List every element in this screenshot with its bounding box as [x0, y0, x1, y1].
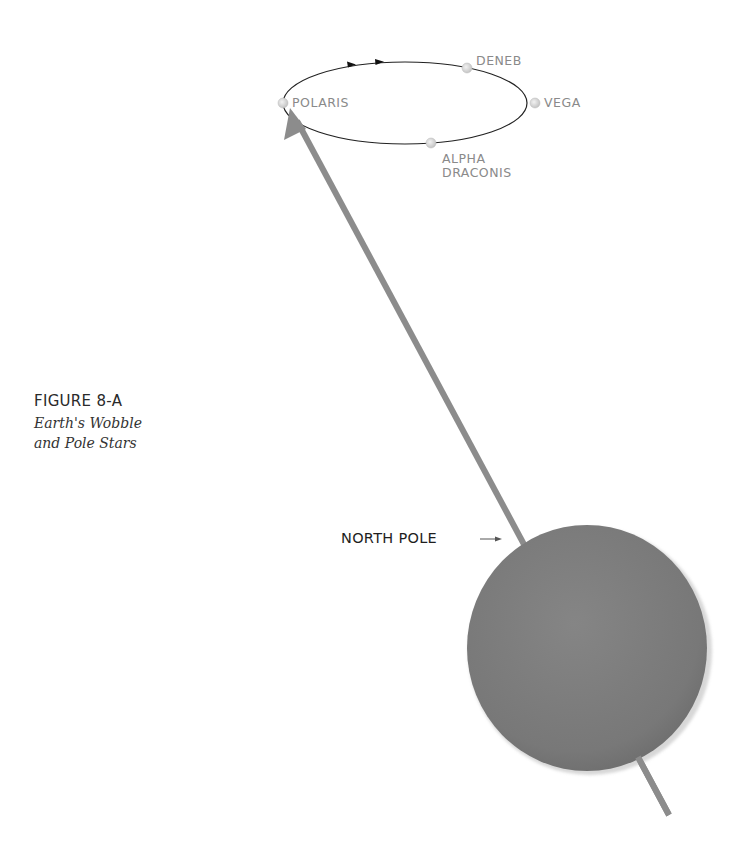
star-vega-icon — [530, 98, 540, 108]
star-label-polaris: POLARIS — [292, 96, 349, 110]
earth-sphere — [467, 525, 707, 771]
north-pole-pointer-arrow-icon — [480, 537, 502, 542]
star-label-alpha-line: ALPHA — [442, 152, 512, 166]
star-label-draconis-line: DRACONIS — [442, 166, 512, 180]
figure-caption-line1: Earth's Wobble — [34, 413, 142, 433]
figure-number: FIGURE 8-A — [34, 392, 122, 410]
star-label-alpha-draconis: ALPHA DRACONIS — [442, 152, 512, 180]
star-alpha-draconis-icon — [426, 138, 436, 148]
figure-canvas: POLARIS DENEB VEGA ALPHA DRACONIS FIGURE… — [0, 0, 742, 845]
earth-axis-south-segment — [638, 757, 669, 815]
orbit-direction-arrow-icon — [375, 59, 384, 65]
figure-caption-line2: and Pole Stars — [34, 433, 142, 453]
star-deneb-icon — [462, 63, 472, 73]
star-label-deneb: DENEB — [476, 54, 522, 68]
north-pole-label: NORTH POLE — [341, 530, 437, 546]
star-label-vega: VEGA — [544, 96, 581, 110]
star-polaris-icon — [278, 98, 288, 108]
figure-caption: Earth's Wobble and Pole Stars — [34, 413, 142, 453]
